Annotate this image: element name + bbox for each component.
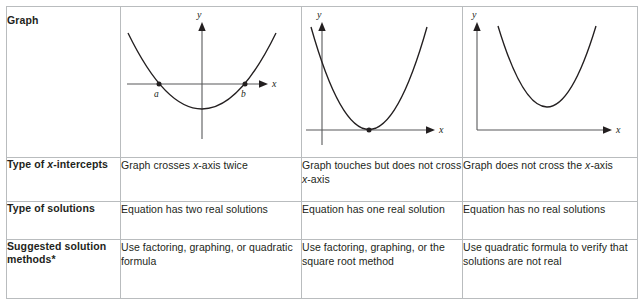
parabola-curve <box>311 27 427 130</box>
y-axis-label: y <box>316 9 322 20</box>
cell-solutions-one-root: Equation has one real solution <box>302 202 463 240</box>
row-label-methods: Suggested solution methods* <box>7 240 121 299</box>
parabola-curve <box>498 26 596 107</box>
cell-solutions-no-roots: Equation has no real solutions <box>463 202 638 240</box>
parabola-one-root-figure: x y <box>302 7 462 149</box>
x-axis-arrowhead <box>259 80 268 87</box>
graph-cell-no-roots: x y <box>463 7 638 158</box>
cell-solutions-two-roots: Equation has two real solutions <box>121 202 302 240</box>
y-axis-label: y <box>196 9 202 20</box>
cell-x-intercepts-one-root: Graph touches but does not cross x-axis <box>302 158 463 202</box>
y-axis-arrowhead <box>318 22 325 31</box>
cell-text-prefix: Graph touches but does not cross <box>302 159 461 171</box>
y-axis-arrowhead <box>198 22 205 31</box>
table-row-x-intercepts: Type of x-intercepts Graph crosses x-axi… <box>7 158 638 202</box>
table-row-graph: Graph x y a <box>7 7 638 158</box>
x-axis-arrowhead <box>603 126 612 133</box>
cell-text-suffix: -axis <box>307 173 329 185</box>
x-axis-label: x <box>438 124 444 135</box>
cell-text-suffix: -axis <box>590 159 612 171</box>
row-label-graph: Graph <box>7 7 121 158</box>
x-axis-label: x <box>271 78 277 89</box>
cell-methods-two-roots: Use factoring, graphing, or quadratic fo… <box>121 240 302 299</box>
y-axis-arrowhead <box>473 22 480 31</box>
cell-text-suffix: -axis twice <box>198 159 248 171</box>
row-label-solutions: Type of solutions <box>7 202 121 240</box>
y-axis-label: y <box>471 9 477 20</box>
cell-text-prefix: Graph crosses <box>121 159 193 171</box>
parabola-no-roots-figure: x y <box>463 7 637 149</box>
parabola-two-roots-figure: x y a b <box>121 7 301 149</box>
table-row-solutions: Type of solutions Equation has two real … <box>7 202 638 240</box>
root-label-a: a <box>154 89 159 99</box>
cell-methods-no-roots: Use quadratic formula to verify that sol… <box>463 240 638 299</box>
x-axis-label: x <box>615 124 621 135</box>
row-label-x-intercepts: Type of x-intercepts <box>7 158 121 202</box>
row-label-text-suffix: -intercepts <box>53 158 108 170</box>
graph-cell-two-roots: x y a b <box>121 7 302 158</box>
table-row-methods: Suggested solution methods* Use factorin… <box>7 240 638 299</box>
x-axis-arrowhead <box>426 126 435 133</box>
graph-cell-one-root: x y <box>302 7 463 158</box>
quadratic-comparison-table: Graph x y a <box>6 6 638 299</box>
cell-x-intercepts-two-roots: Graph crosses x-axis twice <box>121 158 302 202</box>
cell-x-intercepts-no-roots: Graph does not cross the x-axis <box>463 158 638 202</box>
root-point-a <box>157 82 162 87</box>
row-label-text-prefix: Type of <box>7 158 47 170</box>
root-label-b: b <box>241 89 246 99</box>
cell-methods-one-root: Use factoring, graphing, or the square r… <box>302 240 463 299</box>
root-point-b <box>243 82 248 87</box>
cell-text-prefix: Graph does not cross the <box>463 159 585 171</box>
vertex-point <box>367 128 372 133</box>
